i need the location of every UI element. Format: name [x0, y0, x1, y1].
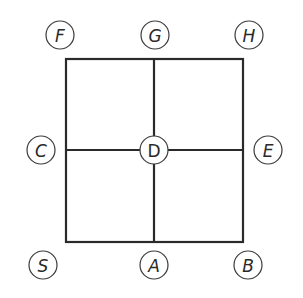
- node-label: B: [242, 256, 254, 276]
- node-label: E: [263, 141, 274, 161]
- node-h: H: [235, 21, 263, 49]
- node-label: C: [35, 141, 47, 161]
- node-label: H: [243, 26, 256, 46]
- node-f: F: [46, 21, 74, 49]
- node-a: A: [140, 251, 168, 279]
- node-b: B: [234, 251, 262, 279]
- node-e: E: [254, 136, 282, 164]
- node-g: G: [141, 21, 169, 49]
- node-label: G: [148, 26, 161, 46]
- node-d: D: [140, 136, 168, 164]
- node-c: C: [27, 136, 55, 164]
- node-label: S: [38, 256, 49, 276]
- grid-diagram: F G H C D E S A B: [0, 0, 303, 298]
- node-label: A: [147, 256, 160, 276]
- node-label: F: [55, 26, 65, 46]
- node-s: S: [29, 251, 57, 279]
- node-label: D: [147, 141, 160, 161]
